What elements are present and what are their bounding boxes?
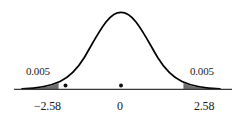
bell-curve-path	[22, 12, 220, 88]
x-tick-label-negative-2-58: −2.58	[34, 100, 61, 112]
x-tick-label-zero: 0	[117, 100, 123, 112]
x-tick-label-positive-2-58: 2.58	[194, 100, 214, 112]
center-axis-dot-marker	[119, 84, 123, 88]
right-tail-area-label: 0.005	[190, 66, 214, 77]
normal-distribution-figure: 0.005 0.005 −2.58 0 2.58	[0, 0, 242, 119]
left-tail-area-label: 0.005	[26, 66, 50, 77]
left-axis-dot-marker	[64, 84, 68, 88]
